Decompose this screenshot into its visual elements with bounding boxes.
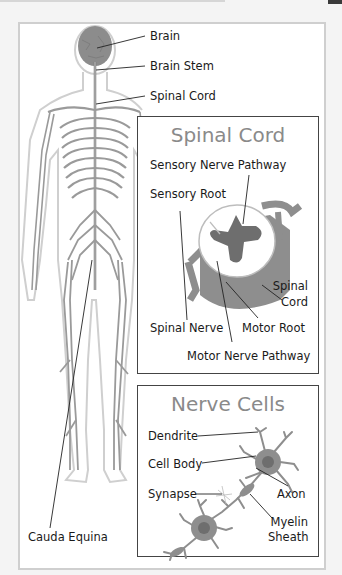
label-myelin-line2: Sheath	[268, 531, 308, 544]
label-cell-body: Cell Body	[148, 458, 202, 471]
label-dendrite: Dendrite	[148, 430, 198, 443]
label-synapse: Synapse	[148, 488, 197, 501]
label-myelin-line1: Myelin	[268, 516, 308, 529]
label-axon: Axon	[277, 488, 306, 501]
